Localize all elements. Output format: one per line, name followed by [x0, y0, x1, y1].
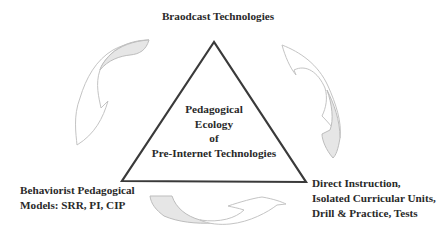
bottom-right-node-label: Direct Instruction, Isolated Curricular …: [312, 176, 436, 221]
bottom-left-node-label: Behaviorist Pedagogical Models: SRR, PI,…: [20, 183, 135, 213]
center-label: Pedagogical Ecology of Pre-Internet Tech…: [134, 102, 294, 160]
center-label-line-4: Pre-Internet Technologies: [134, 146, 294, 161]
bottom-right-line-2: Isolated Curricular Units,: [312, 191, 436, 206]
center-label-line-2: Ecology: [134, 117, 294, 132]
bottom-right-line-1: Direct Instruction,: [312, 176, 436, 191]
bottom-cycle-arrow: [150, 196, 286, 224]
bottom-arrow-body-icon: [200, 197, 286, 224]
bottom-right-line-3: Drill & Practice, Tests: [312, 206, 436, 221]
center-label-line-3: of: [134, 131, 294, 146]
bottom-arrow-shade-icon: [150, 196, 214, 223]
diagram-canvas: Braodcast Technologies Pedagogical Ecolo…: [0, 0, 436, 233]
center-label-line-1: Pedagogical: [134, 102, 294, 117]
bottom-left-line-1: Behaviorist Pedagogical: [20, 183, 135, 198]
top-node-label: Braodcast Technologies: [0, 9, 436, 23]
bottom-left-line-2: Models: SRR, PI, CIP: [20, 198, 135, 213]
